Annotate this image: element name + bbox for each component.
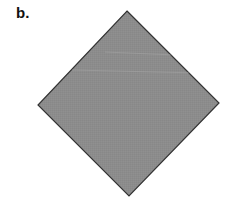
- diamond-shape: [38, 11, 219, 196]
- diamond-figure: [0, 0, 239, 198]
